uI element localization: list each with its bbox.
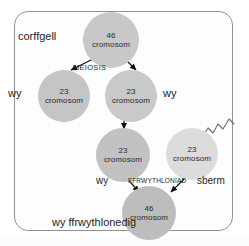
cell-parent-body-cell: 46 cromosom <box>83 12 139 68</box>
cell-gamete-left-chromosome-count: 23 <box>59 87 68 96</box>
cell-gamete-left: 23 cromosom <box>38 70 90 122</box>
cell-gamete-right-unit-label: cromosom <box>112 96 150 105</box>
cell-gamete-right-chromosome-count: 23 <box>126 87 135 96</box>
cell-sperm-chromosome-count: 23 <box>187 145 196 154</box>
bottom-shade-strip <box>0 238 249 246</box>
label-zygote-caption: wy ffrwythlonedig <box>52 216 136 228</box>
cell-zygote-chromosome-count: 46 <box>144 204 153 213</box>
label-ovum-bottom: wy <box>96 175 108 186</box>
cell-zygote: 46 cromosom <box>122 186 176 240</box>
label-ovum-right: wy <box>163 87 176 99</box>
cell-parent-chromosome-count: 46 <box>106 31 115 40</box>
label-body-cell: corffgell <box>18 30 56 42</box>
cell-sperm: 23 cromosom <box>166 128 218 180</box>
label-sperm: sberm <box>197 175 225 186</box>
cell-gamete-right: 23 cromosom <box>105 70 157 122</box>
cell-ovum-unit-label: cromosom <box>104 155 142 164</box>
cell-parent-unit-label: cromosom <box>92 40 130 49</box>
cell-ovum-chromosome-count: 23 <box>118 146 127 155</box>
cell-ovum: 23 cromosom <box>96 128 150 182</box>
cell-sperm-unit-label: cromosom <box>173 154 211 163</box>
label-meiosis: MEIOSIS <box>73 63 106 72</box>
label-fertilisation: FFRWYTHLONIAD <box>128 177 186 184</box>
diagram-canvas: 46 cromosom 23 cromosom 23 cromosom 23 c… <box>0 0 249 246</box>
label-ovum-left: wy <box>8 87 21 99</box>
cell-gamete-left-unit-label: cromosom <box>45 96 83 105</box>
